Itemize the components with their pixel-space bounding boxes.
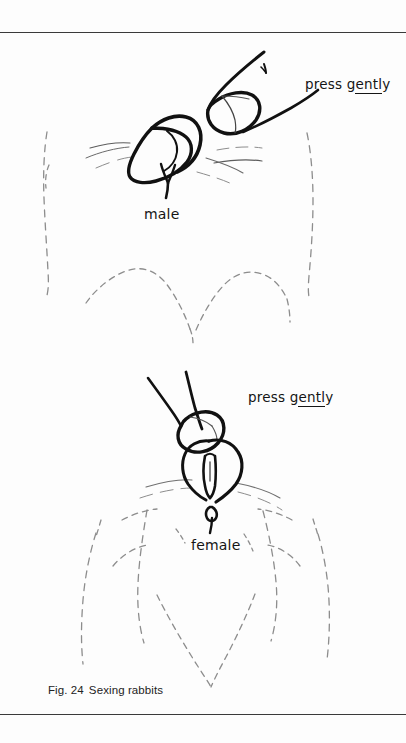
press-gently-plain-1: press g — [305, 76, 355, 92]
press-gently-label-male: press gently — [305, 76, 390, 94]
figure-caption-text: Sexing rabbits — [89, 684, 163, 696]
female-anus-mark — [206, 507, 217, 533]
figure-caption: Fig. 24Sexing rabbits — [48, 684, 163, 696]
press-gently-plain-2: y — [382, 76, 390, 92]
figure-number: Fig. 24 — [48, 684, 84, 696]
press-gently-plain-2: y — [325, 389, 333, 405]
male-rabbit-body-outline — [44, 132, 313, 343]
page-rule-bottom — [0, 714, 406, 715]
press-gently-plain-1: press g — [248, 389, 298, 405]
press-gently-underlined: entl — [298, 389, 325, 407]
female-label: female — [191, 537, 240, 553]
sexing-rabbits-illustration — [0, 0, 406, 743]
press-gently-label-female: press gently — [248, 389, 333, 407]
male-pressing-finger — [208, 52, 318, 134]
press-gently-underlined: entl — [355, 76, 382, 94]
figure-page: press gently male press gently female Fi… — [0, 0, 406, 743]
male-label: male — [144, 206, 180, 222]
